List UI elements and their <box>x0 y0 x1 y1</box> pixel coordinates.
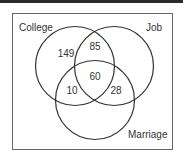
label-job: Job <box>146 22 163 33</box>
region-all-three: 60 <box>89 71 101 82</box>
venn-diagram: College Job Marriage 149 85 60 10 28 <box>0 0 183 158</box>
label-college: College <box>19 22 53 33</box>
label-marriage: Marriage <box>128 129 168 140</box>
region-college-only: 149 <box>58 48 75 59</box>
region-college-marriage: 10 <box>66 85 78 96</box>
region-job-marriage: 28 <box>110 85 122 96</box>
region-college-job: 85 <box>89 41 101 52</box>
